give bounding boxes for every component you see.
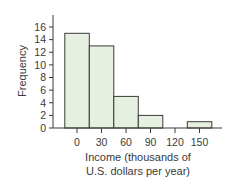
y-axis-title: Frequency [16, 45, 28, 97]
x-tick-label: 150 [191, 136, 209, 148]
x-tick-label: 0 [74, 136, 80, 148]
x-tick-label: 120 [166, 136, 184, 148]
x-tick-label: 90 [145, 136, 157, 148]
y-tick-label: 2 [40, 109, 46, 121]
x-axis-title-line-2: U.S. dollars per year) [86, 165, 190, 177]
y-tick-label: 10 [34, 59, 46, 71]
x-axis-title-line-1: Income (thousands of [85, 151, 192, 163]
x-tick-label: 60 [120, 136, 132, 148]
histogram-bar [187, 122, 212, 128]
x-ticks: 0306090120150 [74, 128, 208, 148]
histogram-chart: 0246810121416 0306090120150 Frequency In… [0, 0, 235, 185]
histogram-bar [114, 96, 139, 128]
x-tick-label: 30 [96, 136, 108, 148]
histogram-bar [65, 33, 90, 128]
bars [65, 33, 212, 128]
y-tick-label: 6 [40, 84, 46, 96]
y-ticks: 0246810121416 [34, 21, 53, 134]
y-tick-label: 12 [34, 46, 46, 58]
y-tick-label: 16 [34, 21, 46, 33]
y-tick-label: 14 [34, 33, 46, 45]
y-tick-label: 0 [40, 122, 46, 134]
histogram-bar [89, 46, 114, 128]
histogram-bar [138, 115, 163, 128]
y-tick-label: 8 [40, 71, 46, 83]
y-tick-label: 4 [40, 97, 46, 109]
